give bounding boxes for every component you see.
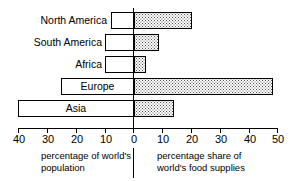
left-axis-caption-line2: population (41, 162, 85, 174)
row-label-europe: Europe (61, 78, 134, 95)
left-axis-caption-line1: percentage of world's (41, 150, 131, 162)
bar-right-africa (134, 56, 146, 73)
chart-row-asia: Asia (0, 98, 296, 120)
x-tick-label-50-right: 50 (265, 133, 291, 145)
bar-right-north-america (134, 12, 192, 29)
chart-row-europe: Europe (0, 76, 296, 98)
zero-axis-line (133, 8, 134, 128)
chart-row-africa: Africa (0, 54, 296, 76)
row-label-south-america: South America (5, 34, 102, 51)
bar-left-north-america (111, 12, 134, 29)
x-tick-label-20-left: 20 (64, 133, 90, 145)
chart-row-south-america: South America (0, 32, 296, 54)
row-label-africa: Africa (5, 56, 102, 73)
x-tick-label-30-left: 30 (35, 133, 61, 145)
bar-left-africa (105, 56, 134, 73)
x-tick-label-20-right: 20 (179, 133, 205, 145)
x-tick-label-30-right: 30 (208, 133, 234, 145)
caption-divider (133, 148, 134, 178)
x-axis-line (18, 128, 278, 129)
x-tick-label-0: 0 (121, 133, 147, 145)
bar-right-asia (134, 100, 174, 117)
x-tick-label-40-right: 40 (237, 133, 263, 145)
x-tick-label-10-left: 10 (93, 133, 119, 145)
x-tick-label-10-right: 10 (150, 133, 176, 145)
row-label-north-america: North America (10, 12, 107, 29)
right-axis-caption-line1: percentage share of (157, 150, 242, 162)
chart-row-north-america: North America (0, 10, 296, 32)
plot-area: North America South America Africa Europ… (0, 0, 296, 128)
bar-left-south-america (105, 34, 134, 51)
row-label-asia: Asia (18, 100, 134, 117)
bar-right-south-america (134, 34, 159, 51)
bar-right-europe (134, 78, 273, 95)
right-axis-caption-line2: world's food supplies (157, 162, 245, 174)
x-tick-label-40-left: 40 (6, 133, 32, 145)
bidirectional-bar-chart: North America South America Africa Europ… (0, 0, 296, 181)
